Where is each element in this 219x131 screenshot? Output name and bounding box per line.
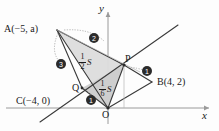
ratio-marker-top: 2 [89, 33, 99, 43]
area-label-half-s: 1 2 S [79, 53, 92, 71]
fraction-sixth: 1 6 [99, 80, 106, 98]
label-point-Q: Q [72, 83, 79, 93]
dot-Q [81, 87, 84, 90]
fraction-denominator: 6 [100, 90, 106, 98]
area-label-sixth-s: 1 6 S [99, 80, 112, 98]
fraction-suffix: S [87, 58, 92, 67]
label-point-B: B(4, 2) [157, 77, 185, 87]
label-point-A: A(−5, a) [4, 24, 38, 34]
label-point-P: P [125, 54, 131, 64]
leader-left [54, 33, 60, 62]
ratio-marker-right: 1 [142, 66, 152, 76]
label-x-axis: x [202, 110, 207, 121]
ratio-marker-left: 3 [56, 59, 66, 69]
geometry-figure: A(−5, a) B(4, 2) C(−4, 0) P Q O y x 1 2 … [0, 0, 219, 131]
ratio-marker-bottom: 1 [86, 95, 96, 105]
label-point-C: C(−4, 0) [16, 96, 50, 106]
figure-canvas [0, 0, 219, 131]
fraction-half: 1 2 [79, 53, 86, 71]
fraction-denominator: 2 [80, 63, 86, 71]
label-origin: O [102, 110, 109, 120]
y-axis-arrow [106, 12, 111, 17]
label-y-axis: y [99, 3, 104, 14]
fraction-suffix: S [107, 85, 112, 94]
fraction-numerator: 1 [80, 53, 86, 61]
fraction-numerator: 1 [100, 80, 106, 88]
